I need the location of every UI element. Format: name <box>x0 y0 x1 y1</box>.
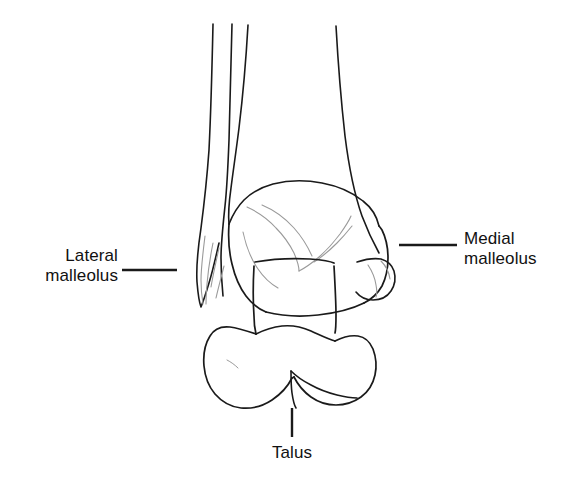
calcaneus-central-notch <box>291 371 357 408</box>
calcaneus-body <box>204 327 376 408</box>
tibia-interior-detail <box>243 205 352 288</box>
tibia-shaft-and-distal-flare <box>229 25 379 253</box>
talus-body <box>253 259 336 341</box>
label-medial-malleolus: Medialmalleolus <box>464 229 560 269</box>
label-talus-line1: Talus <box>272 443 312 462</box>
label-lateral-malleolus: Lateralmalleolus <box>18 246 118 286</box>
calcaneus-interior-detail <box>227 360 238 368</box>
label-lateral-malleolus-line1: Lateral <box>65 246 118 265</box>
label-medial-malleolus-line1: Medial <box>464 229 515 248</box>
label-medial-malleolus-line2: malleolus <box>464 249 537 268</box>
label-talus: Talus <box>242 443 342 463</box>
label-lateral-malleolus-line2: malleolus <box>45 266 118 285</box>
